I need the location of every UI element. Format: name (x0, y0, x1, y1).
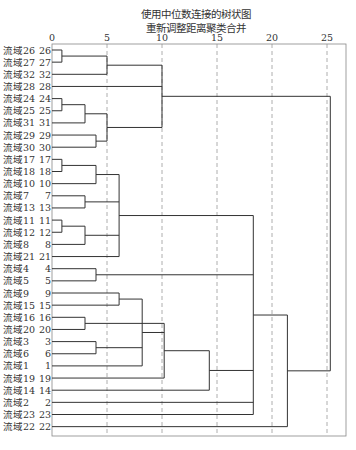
leaf-labels: 流域2626流域2727流域3232流域2828流域2424流域2525流域31… (3, 45, 51, 433)
leaf-name: 流域12 (3, 227, 35, 238)
leaf-name: 流域11 (3, 215, 35, 226)
leaf-id: 18 (39, 166, 51, 177)
leaf-name: 流域23 (3, 409, 35, 420)
leaf-name: 流域21 (3, 251, 35, 262)
leaf-id: 12 (39, 227, 51, 238)
leaf-id: 7 (45, 190, 51, 201)
leaf-id: 31 (39, 117, 51, 128)
leaf-name: 流域17 (3, 154, 35, 165)
leaf-name: 流域14 (3, 385, 35, 396)
leaf-name: 流域22 (3, 421, 35, 432)
leaf-id: 21 (39, 251, 51, 262)
leaf-name: 流域20 (3, 324, 35, 335)
dendrogram-plot: 0510152025 流域2626流域2727流域3232流域2828流域242… (0, 0, 356, 450)
leaf-name: 流域7 (3, 190, 29, 201)
leaf-id: 5 (45, 275, 51, 286)
leaf-name: 流域25 (3, 105, 35, 116)
leaf-name: 流域28 (3, 81, 35, 92)
leaf-name: 流域26 (3, 45, 35, 56)
leaf-id: 11 (39, 215, 51, 226)
leaf-name: 流域19 (3, 373, 35, 384)
leaf-name: 流域24 (3, 93, 35, 104)
x-tick-label: 0 (49, 32, 55, 43)
grid-lines (107, 44, 327, 436)
leaf-name: 流域10 (3, 178, 35, 189)
leaf-id: 6 (45, 348, 51, 359)
leaf-id: 26 (39, 45, 51, 56)
leaf-id: 25 (39, 105, 51, 116)
leaf-id: 2 (45, 397, 51, 408)
leaf-id: 13 (39, 202, 51, 213)
dendrogram-links (52, 50, 330, 427)
leaf-id: 27 (39, 57, 51, 68)
leaf-name: 流域16 (3, 312, 35, 323)
leaf-id: 23 (39, 409, 51, 420)
leaf-id: 28 (39, 81, 51, 92)
leaf-name: 流域13 (3, 202, 35, 213)
leaf-name: 流域29 (3, 130, 35, 141)
x-tick-label: 5 (104, 32, 110, 43)
leaf-name: 流域2 (3, 397, 29, 408)
leaf-name: 流域18 (3, 166, 35, 177)
x-tick-label: 15 (211, 32, 223, 43)
leaf-name: 流域4 (3, 263, 29, 274)
leaf-id: 29 (39, 130, 51, 141)
leaf-name: 流域32 (3, 69, 35, 80)
leaf-id: 3 (45, 336, 51, 347)
x-tick-label: 20 (266, 32, 278, 43)
leaf-id: 10 (39, 178, 51, 189)
leaf-name: 流域5 (3, 275, 29, 286)
x-tick-label: 10 (156, 32, 168, 43)
leaf-id: 19 (39, 373, 51, 384)
leaf-id: 1 (45, 360, 51, 371)
leaf-name: 流域15 (3, 300, 35, 311)
leaf-id: 32 (39, 69, 51, 80)
plot-frame (52, 44, 346, 436)
leaf-id: 9 (45, 288, 51, 299)
leaf-id: 20 (39, 324, 51, 335)
leaf-id: 4 (45, 263, 51, 274)
leaf-name: 流域1 (3, 360, 29, 371)
leaf-name: 流域3 (3, 336, 29, 347)
leaf-name: 流域6 (3, 348, 29, 359)
leaf-id: 14 (39, 385, 51, 396)
leaf-name: 流域31 (3, 117, 35, 128)
leaf-id: 30 (39, 142, 51, 153)
leaf-name: 流域27 (3, 57, 35, 68)
x-axis-ticks: 0510152025 (49, 32, 333, 43)
leaf-id: 24 (39, 93, 51, 104)
leaf-id: 15 (39, 300, 51, 311)
leaf-name: 流域8 (3, 239, 29, 250)
x-tick-label: 25 (321, 32, 333, 43)
leaf-id: 16 (39, 312, 51, 323)
leaf-id: 8 (45, 239, 51, 250)
leaf-id: 17 (39, 154, 51, 165)
leaf-id: 22 (39, 421, 51, 432)
leaf-name: 流域9 (3, 288, 29, 299)
leaf-name: 流域30 (3, 142, 35, 153)
